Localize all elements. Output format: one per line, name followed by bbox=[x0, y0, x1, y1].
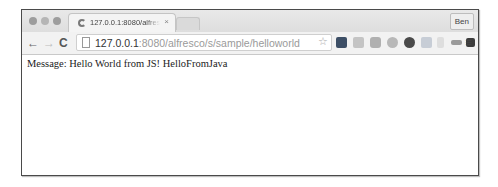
url-path: :8080/alfresco/s/sample/helloworld bbox=[139, 37, 300, 49]
browser-toolbar: ← → C 127.0.0.1:8080/alfresco/s/sample/h… bbox=[22, 32, 478, 55]
reload-button[interactable]: C bbox=[59, 35, 68, 51]
extension-4-icon[interactable] bbox=[387, 37, 398, 48]
address-bar[interactable]: 127.0.0.1:8080/alfresco/s/sample/hellowo… bbox=[76, 34, 332, 51]
loading-favicon-icon bbox=[78, 19, 86, 27]
page-content: Message: Hello World from JS! HelloFromJ… bbox=[22, 55, 478, 175]
extension-6-icon[interactable] bbox=[421, 37, 432, 48]
message-text: Message: Hello World from JS! HelloFromJ… bbox=[27, 58, 227, 69]
url-host: 127.0.0.1 bbox=[95, 37, 139, 49]
extension-5-icon[interactable] bbox=[404, 37, 415, 48]
page-icon bbox=[82, 37, 90, 48]
extension-7-icon[interactable] bbox=[437, 37, 444, 48]
tab-active[interactable]: 127.0.0.1:8080/alfresco/s/sample/hellowo… bbox=[68, 13, 176, 32]
bookmark-star-icon[interactable]: ☆ bbox=[318, 35, 328, 48]
new-tab-button[interactable] bbox=[176, 17, 200, 30]
tab-title: 127.0.0.1:8080/alfresco/s/sample/hellowo… bbox=[90, 18, 160, 27]
extension-8-icon[interactable] bbox=[451, 40, 462, 45]
close-window-button[interactable] bbox=[29, 17, 37, 25]
url-text[interactable]: 127.0.0.1:8080/alfresco/s/sample/hellowo… bbox=[95, 36, 300, 50]
camera-icon[interactable] bbox=[370, 37, 381, 48]
minimize-window-button[interactable] bbox=[41, 17, 49, 25]
extension-1-icon[interactable] bbox=[336, 37, 347, 48]
title-bar: 127.0.0.1:8080/alfresco/s/sample/hellowo… bbox=[22, 10, 478, 32]
back-button[interactable]: ← bbox=[27, 35, 39, 51]
menu-icon[interactable]: ≡ bbox=[466, 36, 472, 49]
extension-2-icon[interactable] bbox=[353, 37, 364, 48]
profile-button[interactable]: Ben bbox=[450, 13, 474, 30]
tab-close-icon[interactable]: × bbox=[164, 17, 169, 26]
forward-button[interactable]: → bbox=[43, 35, 55, 51]
browser-window: 127.0.0.1:8080/alfresco/s/sample/hellowo… bbox=[21, 9, 479, 176]
zoom-window-button[interactable] bbox=[53, 17, 61, 25]
